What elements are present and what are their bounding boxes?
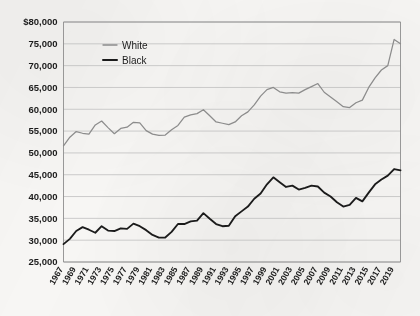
y-axis-tick-label: 65,000 bbox=[28, 82, 57, 93]
y-axis-tick-label: $80,000 bbox=[23, 16, 57, 27]
y-axis-tick-label: 45,000 bbox=[28, 169, 57, 180]
legend-label-black: Black bbox=[122, 55, 147, 66]
data-series-group bbox=[64, 39, 401, 244]
y-axis-tick-label: 35,000 bbox=[28, 213, 57, 224]
y-axis-tick-label: 30,000 bbox=[28, 235, 57, 246]
y-axis-tick-label: 60,000 bbox=[28, 104, 57, 115]
gridlines-group bbox=[64, 22, 401, 262]
y-axis-tick-label: 55,000 bbox=[28, 125, 57, 136]
y-axis-tick-label: 25,000 bbox=[28, 256, 57, 267]
y-axis-tick-labels: 25,00030,00035,00040,00045,00050,00055,0… bbox=[23, 16, 57, 267]
x-axis-tick-labels: 1967196919711973197519771979198119831985… bbox=[47, 265, 396, 287]
y-axis-tick-label: 50,000 bbox=[28, 147, 57, 158]
y-axis-tick-label: 75,000 bbox=[28, 38, 57, 49]
legend-label-white: White bbox=[122, 40, 148, 51]
x-axis-tick-label: 2019 bbox=[378, 265, 396, 287]
series-line-black bbox=[64, 169, 401, 244]
y-axis-tick-label: 40,000 bbox=[28, 191, 57, 202]
chart-page: 25,00030,00035,00040,00045,00050,00055,0… bbox=[0, 0, 420, 316]
income-by-race-line-chart: 25,00030,00035,00040,00045,00050,00055,0… bbox=[0, 0, 420, 316]
series-line-white bbox=[64, 39, 401, 145]
plot-axes bbox=[64, 22, 401, 262]
y-axis-tick-label: 70,000 bbox=[28, 60, 57, 71]
